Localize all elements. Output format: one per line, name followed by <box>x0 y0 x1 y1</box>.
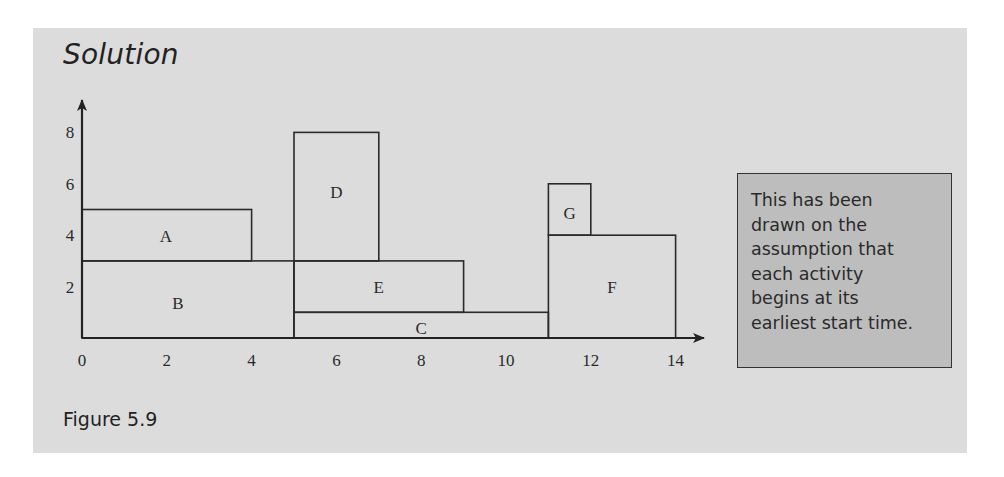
x-tick-label: 14 <box>667 351 685 370</box>
activity-block-b <box>82 261 294 338</box>
activity-label-c: C <box>416 319 427 338</box>
activity-label-d: D <box>330 183 342 202</box>
callout-line: assumption that <box>751 237 943 262</box>
assumption-callout: This has been drawn on the assumption th… <box>737 173 952 368</box>
x-tick-label: 8 <box>417 351 426 370</box>
x-tick-label: 12 <box>582 351 599 370</box>
x-tick-labels: 02468101214 <box>78 351 685 370</box>
x-tick-label: 10 <box>498 351 515 370</box>
callout-line: drawn on the <box>751 213 943 238</box>
y-tick-label: 2 <box>66 278 75 297</box>
y-tick-label: 6 <box>66 175 75 194</box>
callout-line: This has been <box>751 188 943 213</box>
activity-label-b: B <box>172 294 183 313</box>
figure-caption: Figure 5.9 <box>63 408 157 430</box>
x-tick-label: 4 <box>247 351 256 370</box>
callout-line: each activity <box>751 262 943 287</box>
callout-line: earliest start time. <box>751 311 943 336</box>
x-tick-label: 2 <box>163 351 172 370</box>
x-tick-label: 0 <box>78 351 87 370</box>
activity-label-a: A <box>160 227 173 246</box>
y-tick-label: 8 <box>66 123 75 142</box>
callout-line: begins at its <box>751 286 943 311</box>
activity-label-e: E <box>374 278 384 297</box>
activity-label-g: G <box>563 204 575 223</box>
activity-label-f: F <box>607 278 616 297</box>
y-tick-labels: 2468 <box>66 123 75 296</box>
x-tick-label: 6 <box>332 351 341 370</box>
y-tick-label: 4 <box>66 226 75 245</box>
